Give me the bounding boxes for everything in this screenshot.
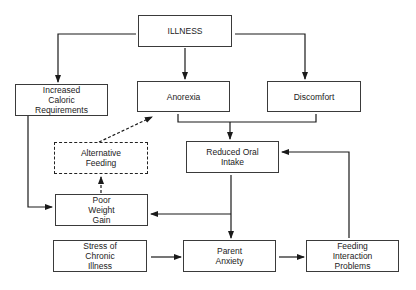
bracket-anorexia-discomfort — [178, 114, 316, 122]
node-label: Alternative Feeding — [81, 148, 121, 168]
node-label: Poor Weight Gain — [88, 195, 114, 225]
node-parent-anxiety: Parent Anxiety — [183, 240, 276, 272]
node-increased-caloric: Increased Caloric Requirements — [15, 84, 108, 116]
node-reduced-oral-intake: Reduced Oral Intake — [186, 141, 279, 173]
node-label: Parent Anxiety — [216, 246, 244, 266]
node-label: Discomfort — [294, 92, 335, 102]
edge-illness-to-discomfort — [235, 34, 305, 79]
node-feeding-interaction-problems: Feeding Interaction Problems — [306, 240, 399, 272]
node-stress-chronic-illness: Stress of Chronic Illness — [53, 240, 147, 272]
node-anorexia: Anorexia — [137, 81, 230, 112]
node-label: Reduced Oral Intake — [206, 147, 258, 167]
edge-alternative-feeding-to-anorexia — [99, 117, 152, 142]
node-illness: ILLNESS — [138, 15, 232, 47]
node-label: Anorexia — [167, 92, 201, 102]
node-label: ILLNESS — [168, 26, 203, 36]
node-label: Stress of Chronic Illness — [83, 241, 117, 271]
node-poor-weight-gain: Poor Weight Gain — [55, 194, 148, 226]
node-discomfort: Discomfort — [267, 81, 361, 112]
edge-increased-caloric-to-poor-weight-gain — [28, 116, 52, 207]
edge-feeding-interaction-to-reduced-oral-intake — [282, 152, 349, 238]
node-alternative-feeding: Alternative Feeding — [54, 142, 148, 174]
node-label: Feeding Interaction Problems — [333, 241, 373, 271]
node-label: Increased Caloric Requirements — [35, 85, 88, 115]
edge-illness-to-increased-caloric — [58, 34, 136, 82]
